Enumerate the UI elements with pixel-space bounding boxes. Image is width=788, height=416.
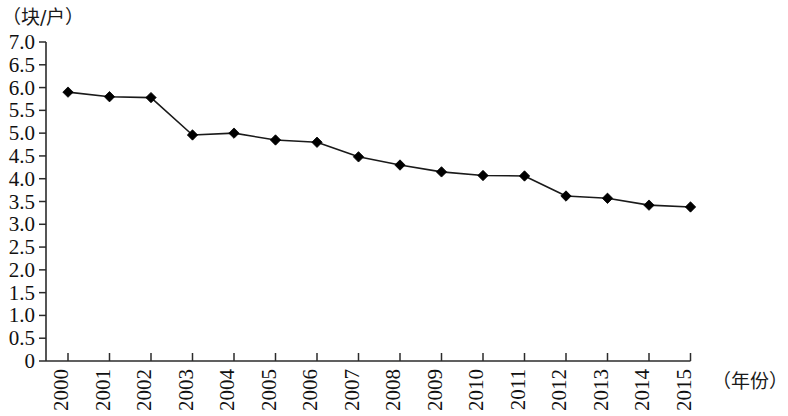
y-tick-label: 5.0 [9, 121, 35, 145]
y-tick-label: 2.5 [9, 235, 35, 259]
x-axis-tick-marks [68, 353, 691, 361]
x-tick-label: 2014 [630, 369, 654, 412]
y-tick-label: 4.0 [9, 167, 35, 191]
x-tick-label: 2002 [132, 369, 156, 411]
data-point-marker [229, 128, 239, 138]
data-series-line [68, 92, 691, 207]
data-point-marker [353, 152, 363, 162]
y-axis-tick-labels: 7.06.56.05.55.04.54.03.53.02.52.01.51.00… [9, 30, 35, 373]
chart-container: （块/户） （年份） 7.06.56.05.55.04.54.03.53.02.… [0, 0, 788, 416]
x-tick-label: 2004 [215, 369, 239, 412]
x-tick-label: 2011 [506, 369, 530, 410]
x-tick-label: 2010 [464, 369, 488, 411]
data-point-marker [519, 171, 529, 181]
y-tick-label: 6.0 [9, 76, 35, 100]
y-tick-label: 4.5 [9, 144, 35, 168]
y-tick-label: 3.5 [9, 190, 35, 214]
data-point-marker [644, 200, 654, 210]
line-chart-plot: 7.06.56.05.55.04.54.03.53.02.52.01.51.00… [0, 0, 788, 416]
x-tick-label: 2005 [257, 369, 281, 411]
x-tick-label: 2007 [340, 369, 364, 411]
x-tick-label: 2006 [298, 369, 322, 411]
data-point-marker [270, 135, 280, 145]
data-point-marker [312, 137, 322, 147]
y-axis-tick-marks [39, 42, 46, 361]
y-tick-label: 0.5 [9, 326, 35, 350]
x-axis-tick-labels: 2000200120022003200420052006200720082009… [49, 369, 696, 412]
x-tick-label: 2009 [423, 369, 447, 411]
y-tick-label: 1.5 [9, 281, 35, 305]
data-point-marker [685, 202, 695, 212]
data-point-marker [395, 160, 405, 170]
y-tick-label: 2.0 [9, 258, 35, 282]
x-tick-label: 2008 [381, 369, 405, 411]
x-tick-label: 2015 [672, 369, 696, 411]
data-point-marker [436, 167, 446, 177]
y-tick-label: 5.5 [9, 98, 35, 122]
data-point-marker [561, 191, 571, 201]
data-point-markers [63, 87, 696, 212]
data-point-marker [478, 170, 488, 180]
x-tick-label: 2013 [589, 369, 613, 411]
y-tick-label: 0 [25, 349, 36, 373]
data-point-marker [63, 87, 73, 97]
x-tick-label: 2012 [547, 369, 571, 411]
x-tick-label: 2003 [174, 369, 198, 411]
y-tick-label: 6.5 [9, 53, 35, 77]
x-tick-label: 2001 [91, 369, 115, 411]
data-point-marker [602, 193, 612, 203]
y-tick-label: 3.0 [9, 212, 35, 236]
data-point-marker [104, 91, 114, 101]
x-tick-label: 2000 [49, 369, 73, 411]
y-tick-label: 1.0 [9, 303, 35, 327]
y-tick-label: 7.0 [9, 30, 35, 54]
